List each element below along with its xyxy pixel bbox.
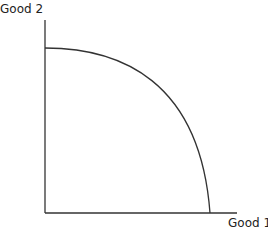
ppf-curve <box>45 48 210 213</box>
x-axis-label: Good 1 <box>228 216 268 230</box>
ppf-diagram <box>0 0 268 230</box>
y-axis-label: Good 2 <box>0 2 43 16</box>
